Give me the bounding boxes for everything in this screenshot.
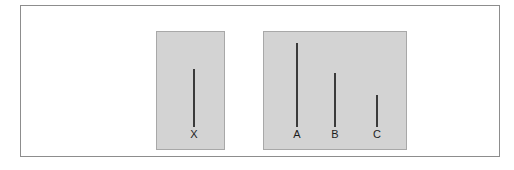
line-item-x: X — [182, 69, 206, 141]
line-stroke-b — [334, 73, 336, 127]
standard-panel: X — [156, 31, 225, 150]
line-stroke-c — [376, 95, 378, 127]
line-label-a: A — [285, 127, 309, 141]
figure-outer-frame: X A B C — [20, 5, 500, 157]
figure-root: X A B C — [0, 0, 514, 170]
line-label-b: B — [323, 127, 347, 141]
line-item-c: C — [365, 95, 389, 141]
line-item-a: A — [285, 43, 309, 141]
line-stroke-a — [296, 43, 298, 127]
line-label-c: C — [365, 127, 389, 141]
line-item-b: B — [323, 73, 347, 141]
line-label-x: X — [182, 127, 206, 141]
comparison-panel: A B C — [263, 31, 407, 150]
line-stroke-x — [193, 69, 195, 127]
